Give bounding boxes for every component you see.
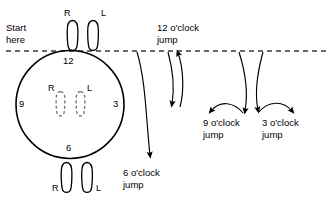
nine-oclock-jump-label-line2: jump xyxy=(203,129,224,141)
nine-oclock-jump-stem xyxy=(239,52,246,111)
bottom-right-foot-icon xyxy=(61,163,72,193)
bottom-right-foot-label: R xyxy=(52,184,59,193)
three-oclock-jump-label-line1: 3 o'clock xyxy=(262,117,299,129)
start-feet-group xyxy=(67,21,98,51)
clock-number-6: 6 xyxy=(66,143,71,153)
start-here-label-line2: here xyxy=(6,34,25,46)
nine-oclock-jump-label-line1: 9 o'clock xyxy=(203,117,240,129)
twelve-oclock-jump-arrow-up xyxy=(178,53,183,107)
inside-left-foot-icon xyxy=(76,92,85,116)
three-oclock-jump-label-line2: jump xyxy=(262,129,283,141)
figure-canvas: Start here R L 12 3 6 9 R L R L 12 o'clo… xyxy=(0,0,331,205)
bottom-left-foot-icon xyxy=(82,163,93,193)
nine-oclock-jump-arc xyxy=(211,104,243,113)
inside-left-foot-label: L xyxy=(87,84,92,93)
start-left-foot-label: L xyxy=(101,9,106,18)
clock-number-9: 9 xyxy=(19,99,24,109)
start-here-label-line1: Start xyxy=(6,22,26,34)
six-oclock-jump-label-line2: jump xyxy=(123,179,144,191)
clock-number-12: 12 xyxy=(63,56,74,66)
clock-number-3: 3 xyxy=(113,99,118,109)
six-oclock-jump-label-line1: 6 o'clock xyxy=(123,167,160,179)
start-left-foot-icon xyxy=(88,21,99,51)
twelve-oclock-jump-arrow-down xyxy=(168,52,173,104)
inside-right-foot-label: R xyxy=(48,84,55,93)
start-right-foot-label: R xyxy=(64,9,71,18)
three-oclock-jump-stem xyxy=(257,52,263,110)
inside-right-foot-icon xyxy=(56,92,65,116)
start-right-foot-icon xyxy=(67,21,78,51)
inside-feet-group xyxy=(56,92,85,116)
twelve-oclock-jump-label-line2: jump xyxy=(157,34,178,46)
bottom-feet-group xyxy=(61,163,92,193)
three-oclock-jump-arc xyxy=(259,103,292,112)
twelve-oclock-jump-label-line1: 12 o'clock xyxy=(157,22,199,34)
six-oclock-jump-arrow xyxy=(137,52,150,155)
bottom-left-foot-label: L xyxy=(96,184,101,193)
